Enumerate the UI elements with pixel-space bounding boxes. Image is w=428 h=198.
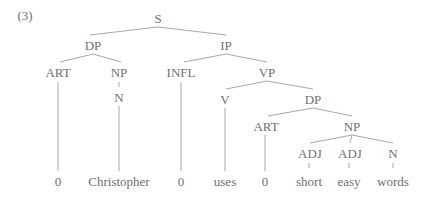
tree-node-w4: uses — [214, 175, 236, 188]
tree-node-w7: easy — [337, 175, 360, 188]
tree-node-np2: NP — [344, 120, 361, 133]
tree-node-art2: ART — [253, 120, 278, 133]
tree-node-w1: 0 — [55, 175, 62, 188]
tree-node-n2: N — [388, 147, 397, 160]
syntax-tree-diagram: (3) SDPIPARTNPNINFLVPVDPARTNPADJADJN0Chr… — [0, 0, 428, 198]
tree-edge — [93, 54, 121, 62]
tree-edge — [352, 135, 393, 143]
tree-node-art1: ART — [45, 66, 70, 79]
tree-node-s: S — [154, 12, 161, 25]
example-number: (3) — [17, 8, 32, 24]
tree-node-dp2: DP — [305, 93, 322, 106]
tree-node-w6: short — [296, 175, 322, 188]
tree-node-np1: NP — [111, 66, 128, 79]
tree-edge — [226, 81, 267, 89]
tree-node-w8: words — [377, 175, 409, 188]
tree-edge — [350, 135, 352, 143]
tree-node-v: V — [220, 93, 229, 106]
tree-edge — [267, 81, 313, 89]
tree-node-w3: 0 — [178, 175, 185, 188]
tree-edge — [90, 27, 158, 35]
tree-edge — [313, 108, 352, 116]
tree-edge — [268, 108, 313, 116]
tree-node-w2: Christopher — [88, 175, 149, 188]
tree-edge — [184, 54, 226, 62]
tree-node-dp1: DP — [85, 39, 102, 52]
tree-node-adj1: ADJ — [298, 147, 322, 160]
tree-node-w5: 0 — [262, 175, 269, 188]
tree-node-ip: IP — [220, 39, 232, 52]
tree-node-vp: VP — [259, 66, 276, 79]
tree-edges — [0, 0, 428, 198]
tree-edge — [310, 135, 352, 143]
tree-edge — [226, 54, 267, 62]
tree-edge — [60, 54, 93, 62]
tree-edge — [158, 27, 226, 35]
tree-node-infl: INFL — [167, 66, 196, 79]
tree-node-n1: N — [114, 91, 123, 104]
tree-node-adj2: ADJ — [338, 147, 362, 160]
